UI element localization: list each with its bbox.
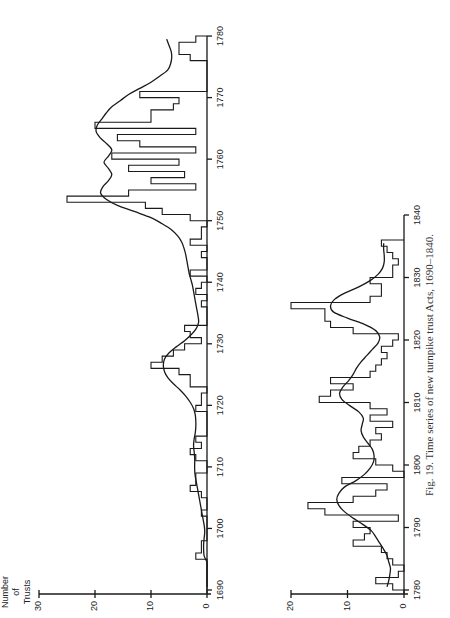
year-tick-label: 1770 [215, 88, 225, 108]
count-tick-label: 0 [398, 603, 408, 608]
year-tick-label: 1730 [215, 334, 225, 354]
axes-1690-1780: 1690170017101720173017401750176017701780… [33, 26, 225, 611]
count-tick-label: 20 [89, 601, 99, 611]
y-axis-label-line: of [11, 588, 21, 596]
year-tick-label: 1720 [215, 395, 225, 415]
y-axis-label-line: Trusts [22, 579, 32, 604]
count-tick-label: 20 [285, 601, 295, 611]
turnpike-trusts-figure: 1690170017101720173017401750176017701780… [0, 0, 450, 618]
year-tick-label: 1810 [412, 392, 422, 412]
count-tick-label: 10 [145, 601, 155, 611]
year-tick-label: 1700 [215, 518, 225, 538]
year-tick-label: 1780 [215, 26, 225, 46]
year-tick-label: 1800 [412, 455, 422, 475]
count-tick-label: 30 [33, 601, 43, 611]
year-tick-label: 1740 [215, 272, 225, 292]
year-tick-label: 1820 [412, 330, 422, 350]
year-tick-label: 1710 [215, 457, 225, 477]
year-tick-label: 1840 [412, 205, 422, 225]
year-tick-label: 1790 [412, 517, 422, 537]
year-tick-label: 1690 [215, 580, 225, 600]
y-axis-label: NumberofTrusts [0, 576, 32, 608]
chart-1780-1840: 178017901800181018201830184001020 [285, 205, 422, 611]
y-axis-label-line: Number [0, 576, 10, 608]
year-tick-label: 1780 [412, 580, 422, 600]
figure-caption: Fig. 19. Time series of new turnpike tru… [423, 234, 435, 496]
year-tick-label: 1760 [215, 149, 225, 169]
count-tick-label: 0 [201, 603, 211, 608]
year-tick-label: 1830 [412, 267, 422, 287]
chart-1690-1780: 1690170017101720173017401750176017701780… [33, 26, 225, 611]
count-tick-label: 10 [342, 601, 352, 611]
year-tick-label: 1750 [215, 211, 225, 231]
trend-line-1690-1780 [96, 39, 207, 587]
histogram-1690-1780 [67, 36, 207, 590]
